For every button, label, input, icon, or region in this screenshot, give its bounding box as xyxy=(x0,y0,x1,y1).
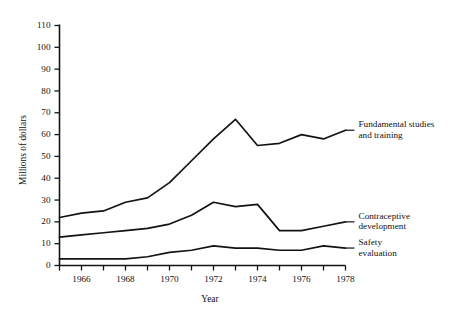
y-axis-tick-label: 0 xyxy=(46,260,51,270)
series-label-line: evaluation xyxy=(359,248,398,258)
x-axis-tick-label: 1978 xyxy=(336,274,355,284)
series-label: Contraceptivedevelopment xyxy=(359,211,411,232)
x-axis-tick-label: 1976 xyxy=(292,274,311,284)
y-axis-tick-label: 90 xyxy=(41,64,51,74)
x-axis-tick-label: 1974 xyxy=(248,274,267,284)
chart-background xyxy=(0,0,468,317)
y-axis-tick-label: 30 xyxy=(41,195,51,205)
x-axis-tick-label: 1968 xyxy=(116,274,135,284)
series-label-line: Fundamental studies xyxy=(359,119,435,129)
y-axis-tick-label: 10 xyxy=(41,238,51,248)
series-label-line: Safety xyxy=(359,237,383,247)
series-label-line: Contraceptive xyxy=(359,211,411,221)
y-axis-tick-label: 50 xyxy=(41,151,51,161)
line-chart: 0102030405060708090100110 19661968197019… xyxy=(0,0,468,317)
y-axis-tick-label: 60 xyxy=(41,129,51,139)
x-axis-tick-label: 1970 xyxy=(160,274,179,284)
y-axis-tick-label: 70 xyxy=(41,107,51,117)
y-axis-tick-label: 100 xyxy=(37,42,51,52)
chart-container: 0102030405060708090100110 19661968197019… xyxy=(0,0,468,317)
y-axis-title: Millions of dollars xyxy=(18,115,28,185)
x-axis-tick-label: 1966 xyxy=(72,274,91,284)
y-axis-tick-label: 40 xyxy=(41,173,51,183)
x-axis-tick-label: 1972 xyxy=(204,274,223,284)
series-label-line: and training xyxy=(359,130,404,140)
y-axis-tick-label: 80 xyxy=(41,86,51,96)
series-label-line: development xyxy=(359,221,407,231)
x-axis-title: Year xyxy=(201,294,219,304)
y-axis-tick-label: 20 xyxy=(41,216,51,226)
y-axis-tick-label: 110 xyxy=(37,20,51,30)
